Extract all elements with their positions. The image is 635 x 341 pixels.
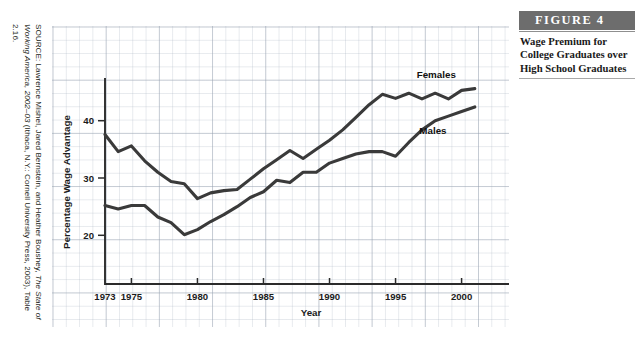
y-tick-label: 20 <box>83 230 94 241</box>
series-label-females: Females <box>417 69 457 80</box>
series-label-males: Males <box>419 125 447 136</box>
x-tick-label: 1975 <box>121 291 143 302</box>
divider-bottom <box>519 78 635 79</box>
x-tick-label: 1973 <box>94 291 115 302</box>
x-tick-label: 2000 <box>451 291 472 302</box>
line-chart: 203040 1973197519801985199019952000 Fema… <box>48 20 514 332</box>
chart-axes <box>105 78 509 284</box>
y-axis-title: Percentage Wage Advantage <box>61 115 72 249</box>
figure-caption-text: Wage Premium for College Graduates over … <box>519 32 635 75</box>
x-tick-label: 1990 <box>319 291 340 302</box>
chart-plot: 203040 1973197519801985199019952000 Fema… <box>48 20 514 332</box>
x-tick-label: 1980 <box>187 291 208 302</box>
x-tick-label: 1985 <box>253 291 275 302</box>
y-tick-label: 40 <box>83 115 94 126</box>
source-note: SOURCE: Lawrence Mishel, Jared Bernstein… <box>8 24 44 320</box>
x-tick-label: 1995 <box>385 291 407 302</box>
x-axis-ticks: 1973197519801985199019952000 <box>94 278 472 302</box>
figure-number-label: FIGURE 4 <box>535 13 604 28</box>
x-axis-title: Year <box>301 307 322 318</box>
figure-caption-panel: FIGURE 4 Wage Premium for College Gradua… <box>519 11 635 95</box>
source-note-prefix: SOURCE: Lawrence Mishel, Jared Bernstein… <box>34 24 43 275</box>
y-axis-ticks: 203040 <box>83 115 105 241</box>
figure-number-bar: FIGURE 4 <box>519 11 635 30</box>
y-tick-label: 30 <box>83 173 94 184</box>
